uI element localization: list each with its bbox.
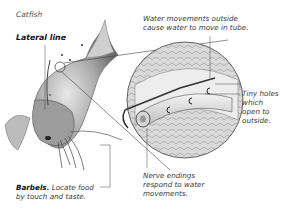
tiny-holes-label: Tiny holes which open to outside. — [242, 89, 279, 125]
barbels-label: Barbels. Locate food by touch and taste. — [16, 183, 94, 201]
lateral-line-label: Lateral line — [16, 33, 66, 42]
diagram-title: Catfish — [16, 10, 42, 19]
magnified-lateral-line-circle — [123, 42, 243, 158]
catfish-illustration — [5, 20, 122, 170]
barbels-desc-line2: by touch and taste. — [16, 192, 94, 201]
barbels-term: Barbels. — [16, 183, 49, 192]
barbels-desc-line1: Locate food — [52, 183, 94, 192]
nerve-endings-label: Nerve endings respond to water movements… — [143, 171, 204, 198]
water-movements-label: Water movements outside cause water to m… — [143, 14, 248, 32]
